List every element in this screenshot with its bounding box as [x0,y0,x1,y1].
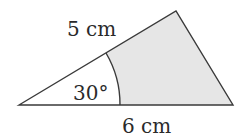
shaded-region [106,11,233,105]
triangle-diagram: 5 cm 30° 6 cm [0,0,236,140]
angle-label: 30° [73,81,108,105]
side-bottom-label: 6 cm [122,114,171,138]
side-top-label: 5 cm [67,17,116,41]
